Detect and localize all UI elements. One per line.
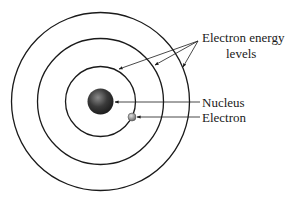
label-electron: Electron	[202, 110, 247, 125]
label-energy-levels-line2: levels	[226, 46, 256, 61]
arrow-to-inner-orbit	[119, 41, 198, 69]
electron	[128, 113, 136, 121]
nucleus	[88, 89, 114, 115]
label-nucleus: Nucleus	[202, 95, 245, 110]
energy-level-arrows	[119, 41, 198, 69]
label-energy-levels-line1: Electron energy	[202, 30, 285, 45]
atom-diagram: Electron energy levels Nucleus Electron	[0, 0, 291, 208]
arrow-to-middle-orbit	[155, 41, 198, 65]
